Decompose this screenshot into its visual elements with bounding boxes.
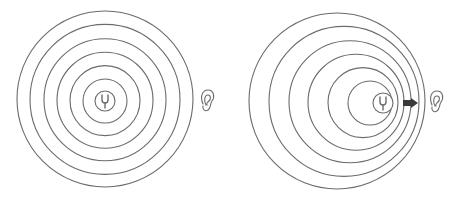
moving-source-panel bbox=[249, 13, 443, 189]
ear-icon bbox=[202, 90, 214, 111]
diagram-canvas bbox=[0, 0, 460, 203]
ear-icon bbox=[431, 91, 443, 112]
stationary-source-panel bbox=[17, 11, 214, 187]
doppler-diagram bbox=[0, 0, 460, 203]
sound-wave-ring bbox=[269, 26, 419, 176]
sound-wave-ring bbox=[249, 13, 425, 189]
